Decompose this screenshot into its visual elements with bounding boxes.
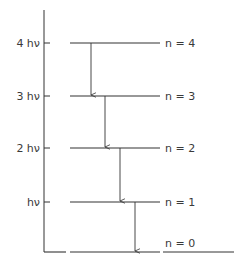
quantum-number-label: n = 2 (165, 142, 195, 155)
level-n4: 4 hν n = 4 (16, 37, 195, 50)
level-n0: n = 0 (44, 237, 234, 252)
quantum-number-label: n = 1 (165, 196, 195, 209)
energy-level-diagram: 4 hν n = 4 3 hν n = 3 2 hν n = 2 hν n = … (0, 0, 246, 267)
level-n3: 3 hν n = 3 (16, 90, 195, 103)
level-n2: 2 hν n = 2 (16, 142, 195, 155)
quantum-number-label: n = 3 (165, 90, 195, 103)
quantum-number-label: n = 0 (165, 237, 195, 250)
quantum-number-label: n = 4 (165, 37, 195, 50)
energy-label: 3 hν (16, 90, 40, 103)
energy-label: hν (27, 196, 40, 209)
energy-label: 4 hν (16, 37, 40, 50)
level-n1: hν n = 1 (27, 196, 195, 209)
energy-label: 2 hν (16, 142, 40, 155)
